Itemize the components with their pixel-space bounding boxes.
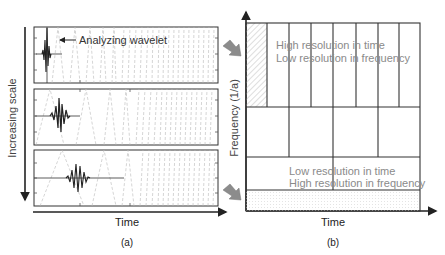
connector-arrow-bottom (223, 184, 241, 200)
caption-b: (b) (327, 237, 339, 248)
y-axis-label-a: Increasing scale (6, 78, 18, 158)
x-axis-label-a: Time (115, 216, 139, 228)
scale-box-large (34, 150, 218, 206)
scale-box-small: Analyzing wavelet (34, 27, 218, 83)
dotted-tile (246, 190, 420, 211)
scale-box-medium (34, 89, 218, 145)
hatched-tile (246, 23, 267, 107)
panel-a: Increasing scale Time (a) Analyzing (6, 27, 226, 248)
top-text-line2: Low resolution in frequency (276, 52, 410, 64)
y-axis-label-b: Frequency (1/a) (228, 79, 240, 157)
bottom-text-line1: Low resolution in time (289, 165, 395, 177)
top-text-line1: High resolution in time (276, 39, 385, 51)
wavelet-diagram: Increasing scale Time (a) Analyzing (0, 0, 445, 255)
x-axis-label-b: Time (321, 216, 345, 228)
caption-a: (a) (121, 237, 133, 248)
connector-arrow-top (223, 40, 241, 56)
panel-b: Frequency (1/a) Time (b) (228, 12, 436, 248)
analyzing-wavelet-label: Analyzing wavelet (79, 34, 167, 46)
bottom-text-line2: High resolution in frequency (289, 177, 426, 189)
